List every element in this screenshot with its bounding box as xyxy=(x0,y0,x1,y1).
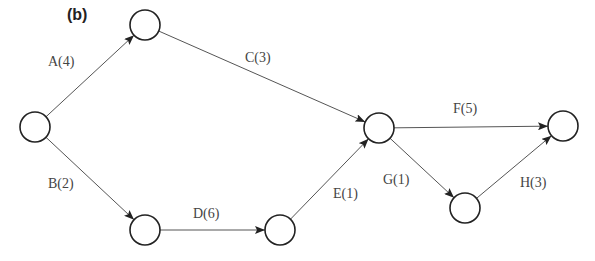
edge-g xyxy=(390,138,454,198)
node-n1 xyxy=(20,112,50,142)
node-n7 xyxy=(548,111,578,141)
edge-label-f: F(5) xyxy=(453,101,477,117)
node-n5 xyxy=(364,113,394,143)
edge-label-a: A(4) xyxy=(48,54,74,70)
edge-c xyxy=(159,31,366,122)
edge-label-h: H(3) xyxy=(520,175,546,191)
node-n4 xyxy=(265,215,295,245)
node-n2 xyxy=(130,10,160,40)
edge-a xyxy=(46,35,134,117)
edge-label-d: D(6) xyxy=(193,206,219,222)
node-n6 xyxy=(450,193,480,223)
edge-e xyxy=(290,139,368,219)
edge-label-g: G(1) xyxy=(383,172,409,188)
edge-label-e: E(1) xyxy=(333,186,358,202)
figure-label: (b) xyxy=(67,6,87,24)
network-diagram xyxy=(0,0,595,261)
edge-f xyxy=(394,126,548,128)
node-n3 xyxy=(130,215,160,245)
edge-label-b: B(2) xyxy=(48,176,74,192)
edge-label-c: C(3) xyxy=(245,50,271,66)
